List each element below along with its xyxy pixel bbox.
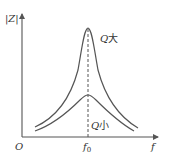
y-axis-label: |Z| (5, 13, 19, 25)
origin-label: O (15, 141, 23, 152)
low-q-label: Q小 (91, 120, 109, 131)
high-q-label: Q大 (100, 32, 118, 44)
x-axis-label: f (150, 141, 157, 152)
low-q-label-cn: 小 (99, 120, 109, 131)
high-q-curve (35, 28, 138, 128)
impedance-resonance-diagram: |Z| O f f0 Q大 Q小 (0, 0, 172, 161)
high-q-label-q: Q (100, 33, 108, 44)
low-q-label-q: Q (91, 120, 99, 131)
high-q-label-cn: 大 (108, 32, 118, 44)
f0-label: f0 (82, 141, 91, 154)
f0-label-sub: 0 (87, 146, 91, 154)
